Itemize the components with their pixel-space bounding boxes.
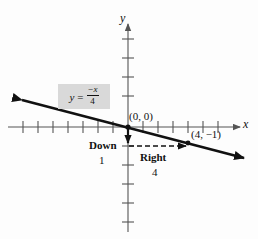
rise-label: Down (89, 140, 117, 151)
graph-figure: y x (0, 0) (4, −1) Down 1 Right 4 y = −x… (0, 0, 258, 239)
rise-value: 1 (99, 155, 105, 166)
equation-numerator: −x (87, 85, 99, 94)
origin-point-label: (0, 0) (129, 111, 153, 122)
equation-lhs: y (69, 91, 74, 103)
equation-denominator: 4 (90, 97, 95, 106)
axis-label-x: x (243, 118, 248, 130)
point-4-neg1 (186, 141, 191, 146)
equation-label: y = −x 4 (58, 84, 110, 109)
second-point-label: (4, −1) (191, 129, 221, 140)
run-value: 4 (152, 167, 158, 178)
equation-fraction: −x 4 (87, 85, 99, 106)
run-label: Right (140, 152, 166, 163)
axis-label-y: y (120, 12, 125, 24)
equation-operator: = (77, 91, 83, 103)
point-origin (125, 124, 130, 129)
